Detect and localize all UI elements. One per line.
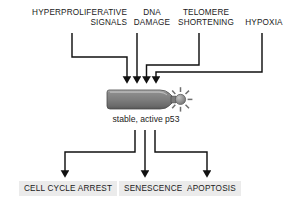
arrow-p53-to-apoptosis	[155, 130, 207, 174]
stimulus-label-hypoxia: HYPOXIA	[238, 18, 290, 28]
stimulus-line-2: DAMAGE	[128, 18, 176, 28]
stimulus-line-1: TELOMERE	[170, 8, 242, 18]
stimulus-line-1: HYPERPROLIFERATIVE	[17, 8, 127, 18]
outcome-box-senescence: SENESCENCE	[119, 181, 187, 196]
arrow-hypoxia-to-p53	[156, 33, 262, 80]
stimulus-line-1: HYPOXIA	[238, 18, 290, 28]
stimulus-label-hyperproliferative-signals: HYPERPROLIFERATIVE SIGNALS	[17, 8, 127, 27]
arrow-connector-layer	[0, 0, 295, 202]
arrow-hyperproliferative-to-p53	[72, 33, 127, 80]
stimulus-line-2: SIGNALS	[17, 18, 127, 28]
bomb-spark-ball	[175, 94, 185, 104]
lit-bomb-icon	[107, 87, 192, 111]
arrow-telomere-shortening-to-p53	[147, 33, 200, 80]
stimulus-label-telomere-shortening: TELOMERE SHORTENING	[170, 8, 242, 27]
p53-caption: stable, active p53	[86, 114, 206, 124]
arrow-p53-to-cell-cycle-arrest	[65, 130, 135, 174]
p53-pathway-diagram: HYPERPROLIFERATIVE SIGNALS DNA DAMAGE TE…	[0, 0, 295, 202]
outcome-box-cell-cycle-arrest: CELL CYCLE ARREST	[19, 181, 117, 196]
outcome-box-apoptosis: APOPTOSIS	[182, 181, 241, 196]
stimulus-label-dna-damage: DNA DAMAGE	[128, 8, 176, 27]
stimulus-line-2: SHORTENING	[170, 18, 242, 28]
stimulus-line-1: DNA	[128, 8, 176, 18]
